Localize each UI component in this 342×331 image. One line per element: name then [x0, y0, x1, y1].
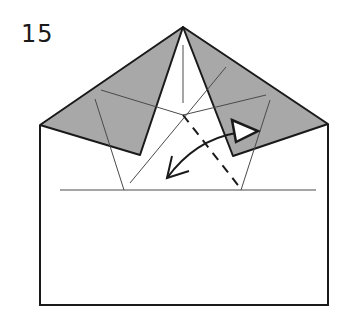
left-flap — [40, 27, 183, 155]
paper-body — [40, 124, 328, 305]
origami-diagram — [0, 0, 342, 331]
right-flap — [183, 27, 328, 156]
